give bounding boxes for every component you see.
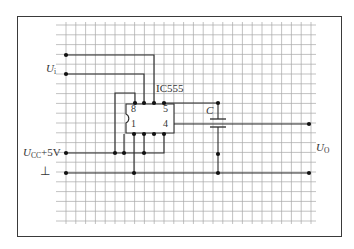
ground-icon: ⊥ (40, 164, 50, 179)
pin-5-label: 5 (163, 103, 168, 114)
wires (66, 55, 309, 173)
output-label: UO (316, 141, 329, 155)
pin-4-label: 4 (163, 118, 168, 129)
junction-dots (64, 53, 311, 175)
input-label: Ui (46, 62, 56, 76)
grid (56, 22, 316, 224)
circuit-diagram (0, 0, 354, 249)
pin-1-label: 1 (131, 118, 136, 129)
vcc-label: UCC+5V (23, 146, 61, 160)
pin-8-label: 8 (131, 103, 136, 114)
capacitor-label: C (206, 104, 213, 116)
ic-label: IC555 (156, 82, 184, 94)
